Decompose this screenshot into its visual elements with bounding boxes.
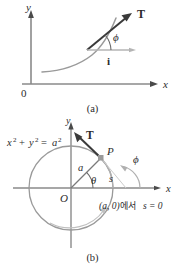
panel-a-unit-vector-i (87, 48, 136, 52)
panel-b-note: (a, 0) 에서 s = 0 (99, 201, 163, 212)
circle-eq-y-exp: 2 (35, 136, 39, 144)
note-s-label: s = 0 (143, 201, 163, 211)
panel-b-y-axis-label: y (65, 118, 71, 126)
panel-b-origin-label: O (60, 192, 68, 204)
circle-eq-y: y (28, 137, 34, 148)
panel-b-radius-line (71, 158, 101, 188)
panel-a-caption: (a) (87, 103, 99, 114)
circle-eq-x: x (6, 137, 12, 148)
panel-a-tangent-label: T (137, 7, 145, 21)
circle-eq-x-exp: 2 (13, 136, 17, 144)
note-korean-label: 에서 (120, 201, 136, 211)
panel-b-x-axis-label: x (165, 183, 171, 194)
panel-a-phi-label: ϕ (113, 31, 119, 43)
panel-b-point-p-marker (98, 155, 104, 161)
panel-b-theta-label: θ (91, 175, 96, 186)
panel-a-i-vector-label: i (107, 55, 110, 67)
panel-a-y-axis (28, 10, 34, 84)
panel-a-curve (42, 18, 116, 72)
panel-b-radius-label: a (78, 162, 83, 173)
panel-a-x-axis-label: x (162, 78, 168, 90)
figure-root: y x 0 T i ϕ (a) (0, 0, 185, 268)
circle-eq-a-exp: 2 (58, 136, 62, 144)
panel-b-arc-s-label: s (109, 173, 113, 184)
panel-b-x-axis (13, 186, 161, 190)
panel-b-point-p-label: P (106, 145, 114, 157)
panel-b-caption: (b) (86, 252, 98, 263)
panel-b-phi-label: ϕ (133, 153, 139, 165)
note-point-label: (a, 0) (99, 201, 120, 212)
panel-a-tangent-vector (87, 13, 132, 50)
panel-b-circle-equation: x 2 + y 2 = a 2 (6, 136, 62, 149)
panel-b-tangent-label: T (86, 129, 94, 141)
panel-b-diagram: y x O x 2 + y 2 = a 2 T P a θ s ϕ (a, 0)… (0, 118, 185, 266)
circle-eq-equals: = (41, 137, 47, 148)
panel-a-x-axis (22, 81, 158, 87)
circle-eq-a: a (52, 137, 57, 148)
panel-a-y-axis-label: y (25, 1, 31, 13)
panel-b-y-axis (68, 122, 73, 248)
circle-eq-plus: + (19, 137, 25, 148)
